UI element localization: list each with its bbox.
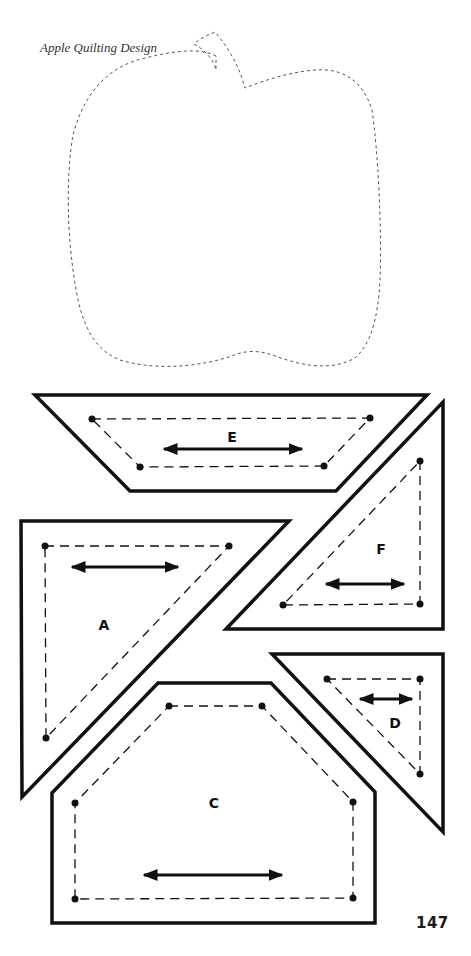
piece-label-a: A (99, 617, 110, 633)
piece-f: F (226, 402, 443, 629)
pattern-sheet: E F A D C (0, 0, 471, 956)
piece-c: C (52, 683, 375, 923)
piece-label-f: F (376, 541, 386, 557)
page-number: 147 (416, 914, 449, 932)
piece-a: A (21, 521, 289, 797)
apple-template (68, 32, 380, 366)
piece-label-e: E (227, 429, 237, 445)
piece-d: D (272, 654, 443, 832)
apple-outline (68, 32, 380, 366)
piece-label-d: D (389, 715, 401, 731)
piece-e: E (35, 395, 427, 491)
piece-label-c: C (209, 795, 219, 811)
